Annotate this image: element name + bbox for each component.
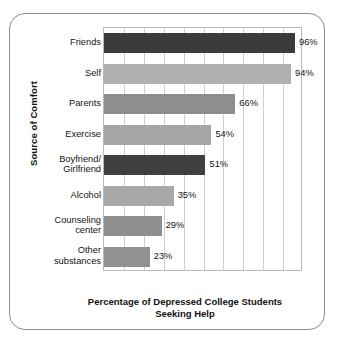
category-label-line: Alcohol bbox=[22, 190, 101, 200]
bar-value-label: 35% bbox=[178, 190, 197, 200]
bar bbox=[104, 186, 174, 206]
category-label: Exercise bbox=[22, 129, 101, 139]
x-axis-title: Percentage of Depressed College Students… bbox=[60, 296, 310, 320]
category-label-line: Girlfriend bbox=[22, 164, 101, 174]
bar-value-label: 54% bbox=[215, 129, 234, 139]
bar bbox=[104, 216, 162, 236]
category-label: Friends bbox=[22, 37, 101, 47]
bar bbox=[104, 155, 205, 175]
bar bbox=[104, 125, 211, 145]
plot-area: 96%94%66%54%51%35%29%23% bbox=[103, 27, 302, 271]
category-label-line: Friends bbox=[22, 37, 101, 47]
category-label-line: Counseling bbox=[22, 215, 101, 225]
y-axis-category-labels: FriendsSelfParentsExerciseBoyfriend/Girl… bbox=[22, 27, 101, 271]
bar-value-label: 29% bbox=[166, 220, 185, 230]
bar bbox=[104, 33, 295, 53]
category-label-line: Boyfriend/ bbox=[22, 154, 101, 164]
bar bbox=[104, 64, 291, 84]
category-label-line: Parents bbox=[22, 98, 101, 108]
bar-value-label: 51% bbox=[209, 159, 228, 169]
bar-value-label: 23% bbox=[154, 251, 173, 261]
category-label: Boyfriend/Girlfriend bbox=[22, 154, 101, 175]
category-label-line: substances bbox=[22, 256, 101, 266]
bar-value-label: 96% bbox=[299, 37, 318, 47]
x-axis-title-line: Percentage of Depressed College Students bbox=[60, 296, 310, 308]
chart-figure: Source of Comfort FriendsSelfParentsExer… bbox=[0, 0, 337, 341]
category-label-line: Exercise bbox=[22, 129, 101, 139]
bar bbox=[104, 247, 150, 267]
category-label: Othersubstances bbox=[22, 245, 101, 266]
category-label-line: Other bbox=[22, 245, 101, 255]
bar bbox=[104, 94, 235, 114]
category-label: Parents bbox=[22, 98, 101, 108]
bar-value-label: 66% bbox=[239, 98, 258, 108]
category-label-line: center bbox=[22, 225, 101, 235]
bar-value-label: 94% bbox=[295, 68, 314, 78]
category-label-line: Self bbox=[22, 68, 101, 78]
category-label: Self bbox=[22, 68, 101, 78]
category-label: Alcohol bbox=[22, 190, 101, 200]
x-axis-title-line: Seeking Help bbox=[60, 308, 310, 320]
category-label: Counselingcenter bbox=[22, 215, 101, 236]
